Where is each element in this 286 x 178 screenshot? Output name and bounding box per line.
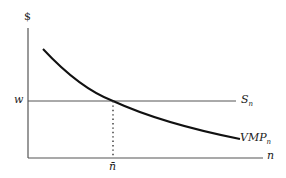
labor-market-diagram: $ w Sn VMPn n n̄ xyxy=(0,0,286,178)
vmp-curve xyxy=(43,49,240,139)
x-axis-label: n xyxy=(267,150,274,161)
supply-label-sub: n xyxy=(249,100,254,108)
supply-label: Sn xyxy=(241,94,253,105)
wage-label: w xyxy=(14,94,23,105)
supply-label-main: S xyxy=(241,93,249,106)
diagram-canvas xyxy=(0,0,286,178)
vmp-label: VMPn xyxy=(240,132,271,143)
vmp-label-sub: n xyxy=(267,138,272,146)
vmp-label-main: VMP xyxy=(240,131,267,144)
y-axis-label: $ xyxy=(24,11,31,22)
nbar-label: n̄ xyxy=(109,161,116,172)
